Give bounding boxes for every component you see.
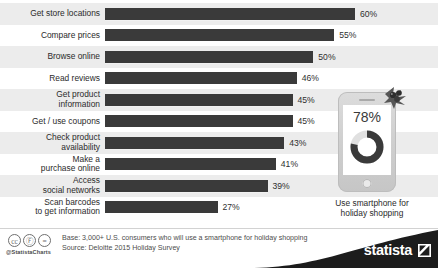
footer-divider xyxy=(0,228,438,229)
bar-value-label: 60% xyxy=(360,9,377,19)
bar-category-label: Scan barcodes to get information xyxy=(0,198,105,217)
smartphone-callout: 78% xyxy=(338,92,400,195)
bar-category-label: Read reviews xyxy=(0,74,105,83)
bar-category-label: Access social networks xyxy=(0,176,105,195)
statista-logo-mark xyxy=(418,244,431,257)
callout-percent: 78% xyxy=(343,109,391,125)
statista-chart: Get store locations60%Compare prices55%B… xyxy=(0,0,438,268)
chart-footer: cc Ⓕ = @StatistaCharts Base: 3,000+ U.S.… xyxy=(0,228,438,268)
bar-row: Get store locations60% xyxy=(0,3,438,25)
bar-category-label: Get / use coupons xyxy=(0,117,105,126)
phone-screen: 78% xyxy=(343,105,391,175)
bar-value-label: 41% xyxy=(281,159,298,169)
bar xyxy=(105,29,334,41)
holly-berries-icon xyxy=(382,84,412,110)
bar-zone: 50% xyxy=(105,46,438,68)
creative-commons-icon: cc xyxy=(8,234,21,247)
bar-zone: 55% xyxy=(105,25,438,47)
license-icons: cc Ⓕ = xyxy=(8,234,51,247)
bar-category-label: Compare prices xyxy=(0,31,105,40)
bar-value-label: 46% xyxy=(302,73,319,83)
bar xyxy=(105,180,268,192)
bar-category-label: Browse online xyxy=(0,52,105,61)
bar-value-label: 45% xyxy=(298,95,315,105)
no-derivatives-icon: = xyxy=(38,234,51,247)
bar xyxy=(105,72,297,84)
bar-zone: 60% xyxy=(105,3,438,25)
bar-row: Compare prices55% xyxy=(0,25,438,47)
bar-value-label: 39% xyxy=(273,181,290,191)
bar-value-label: 45% xyxy=(298,116,315,126)
bar-category-label: Get store locations xyxy=(0,9,105,18)
bar xyxy=(105,158,276,170)
callout-caption: Use smartphone for holiday shopping xyxy=(312,198,432,218)
bar xyxy=(105,8,355,20)
bar xyxy=(105,51,313,63)
attribution-icon: Ⓕ xyxy=(23,234,36,247)
statista-handle: @StatistaCharts xyxy=(6,249,51,255)
bar xyxy=(105,94,293,106)
bar-category-label: Check product availability xyxy=(0,133,105,152)
bar-row: Read reviews46% xyxy=(0,68,438,90)
bar-category-label: Make a purchase online xyxy=(0,155,105,174)
bar-category-label: Get product information xyxy=(0,90,105,109)
bar-value-label: 27% xyxy=(223,202,240,212)
bar-row: Browse online50% xyxy=(0,46,438,68)
phone-speaker xyxy=(359,99,375,101)
donut-chart xyxy=(349,129,385,165)
bar xyxy=(105,137,284,149)
bar xyxy=(105,201,218,213)
phone-home-button xyxy=(363,179,372,188)
bar-value-label: 43% xyxy=(289,138,306,148)
bar xyxy=(105,115,293,127)
statista-logo: statista xyxy=(364,242,412,258)
bar-value-label: 55% xyxy=(339,30,356,40)
bar-value-label: 50% xyxy=(318,52,335,62)
